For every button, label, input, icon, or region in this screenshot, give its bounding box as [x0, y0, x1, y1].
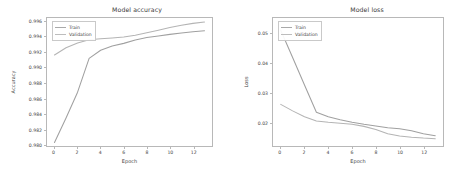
legend-label-train: Train: [295, 25, 306, 30]
x-tick-mark: [328, 147, 329, 149]
x-tick-mark: [280, 147, 281, 149]
y-tick-mark: [270, 33, 272, 34]
y-tick-label: 0.05: [232, 31, 268, 36]
x-tick-mark: [352, 147, 353, 149]
x-tick-mark: [194, 147, 195, 149]
y-tick-label: 0.984: [0, 112, 42, 117]
legend-line-icon-validation: [55, 34, 66, 35]
y-tick-mark: [44, 99, 46, 100]
y-tick-label: 0.990: [0, 65, 42, 70]
x-tick-mark: [304, 147, 305, 149]
legend-line-icon-validation: [281, 34, 292, 35]
x-tick-label: 12: [421, 150, 427, 155]
x-tick-mark: [124, 147, 125, 149]
y-tick-label: 0.03: [232, 90, 268, 95]
x-tick-label: 6: [122, 150, 125, 155]
y-tick-mark: [270, 63, 272, 64]
series-line-train: [281, 30, 436, 135]
x-tick-mark: [400, 147, 401, 149]
series-line-train: [54, 31, 204, 143]
y-tick-mark: [270, 123, 272, 124]
x-tick-label: 2: [302, 150, 305, 155]
x-tick-label: 10: [167, 150, 173, 155]
x-tick-label: 4: [326, 150, 329, 155]
y-tick-mark: [44, 83, 46, 84]
y-tick-mark: [44, 114, 46, 115]
y-tick-label: 0.982: [0, 127, 42, 132]
y-tick-mark: [44, 52, 46, 53]
legend-line-icon-train: [55, 27, 66, 28]
x-tick-mark: [376, 147, 377, 149]
chart-title-loss: Model loss: [232, 6, 464, 13]
x-tick-label: 4: [99, 150, 102, 155]
legend-loss: Train Validation: [278, 21, 322, 41]
x-tick-mark: [100, 147, 101, 149]
figure-canvas: Model accuracy 0.9800.9820.9840.9860.988…: [0, 0, 465, 175]
y-tick-mark: [44, 67, 46, 68]
legend-accuracy: Train Validation: [52, 21, 96, 41]
y-tick-label: 0.996: [0, 18, 42, 23]
legend-line-icon-train: [281, 27, 292, 28]
y-axis-label-loss: Loss: [243, 77, 249, 88]
y-tick-label: 0.992: [0, 49, 42, 54]
y-tick-mark: [44, 145, 46, 146]
x-tick-mark: [424, 147, 425, 149]
y-tick-label: 0.02: [232, 120, 268, 125]
y-tick-label: 0.980: [0, 143, 42, 148]
x-tick-label: 12: [191, 150, 197, 155]
y-tick-label: 0.986: [0, 96, 42, 101]
y-axis-label-accuracy: Accuracy: [10, 71, 16, 94]
y-tick-label: 0.04: [232, 61, 268, 66]
x-tick-label: 0: [52, 150, 55, 155]
y-tick-label: 0.988: [0, 80, 42, 85]
x-tick-mark: [77, 147, 78, 149]
y-tick-label: 0.994: [0, 34, 42, 39]
x-tick-mark: [147, 147, 148, 149]
legend-label-validation: Validation: [69, 32, 92, 37]
legend-item-train: Train: [55, 24, 92, 31]
x-tick-mark: [170, 147, 171, 149]
legend-item-train: Train: [281, 24, 318, 31]
x-tick-label: 6: [351, 150, 354, 155]
y-tick-mark: [44, 130, 46, 131]
chart-title-accuracy: Model accuracy: [0, 6, 232, 13]
x-tick-label: 10: [397, 150, 403, 155]
y-tick-mark: [44, 36, 46, 37]
legend-item-validation: Validation: [55, 31, 92, 38]
y-tick-mark: [44, 21, 46, 22]
chart-panel-loss: Model loss 0.020.030.040.05024681012 Epo…: [232, 0, 464, 175]
x-axis-label-loss: Epoch: [350, 158, 365, 164]
y-tick-mark: [270, 93, 272, 94]
x-tick-label: 2: [75, 150, 78, 155]
x-tick-label: 8: [375, 150, 378, 155]
x-tick-mark: [54, 147, 55, 149]
legend-item-validation: Validation: [281, 31, 318, 38]
x-tick-label: 0: [278, 150, 281, 155]
x-tick-label: 8: [146, 150, 149, 155]
legend-label-validation: Validation: [295, 32, 318, 37]
chart-panel-accuracy: Model accuracy 0.9800.9820.9840.9860.988…: [0, 0, 232, 175]
x-axis-label-accuracy: Epoch: [122, 158, 137, 164]
series-line-validation: [281, 104, 436, 138]
legend-label-train: Train: [69, 25, 80, 30]
